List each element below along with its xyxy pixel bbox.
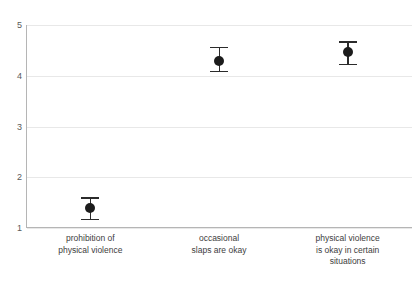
y-tick-label-2: 2 — [2, 173, 22, 182]
error-bar-cap-lower — [81, 219, 99, 221]
data-point-marker — [343, 47, 353, 57]
x-category-label-line: physical violence — [283, 233, 413, 245]
error-bar-cap-upper — [339, 41, 357, 43]
x-category-label-line: slaps are okay — [154, 245, 284, 257]
y-axis-tick-labels: 54321 — [0, 25, 22, 228]
x-category-label: physical violenceis okay in certainsitua… — [283, 233, 413, 268]
gridline-5 — [27, 25, 412, 26]
x-category-label-line: occasional — [154, 233, 284, 245]
gridline-2 — [27, 177, 412, 178]
x-category-label: prohibition ofphysical violence — [25, 233, 155, 256]
x-category-label-line: physical violence — [25, 245, 155, 257]
y-tick-label-5: 5 — [2, 21, 22, 30]
x-category-label-line: is okay in certain — [283, 245, 413, 257]
gridline-3 — [27, 127, 412, 128]
x-category-label-line: prohibition of — [25, 233, 155, 245]
error-bar-cap-lower — [210, 71, 228, 73]
gridline-4 — [27, 76, 412, 77]
data-point-marker — [85, 203, 95, 213]
gridline-1 — [27, 228, 412, 229]
error-bar-cap-upper — [81, 197, 99, 199]
data-point-marker — [214, 56, 224, 66]
plot-area — [26, 25, 412, 228]
x-category-label-line: situations — [283, 256, 413, 268]
x-category-label: occasionalslaps are okay — [154, 233, 284, 256]
y-tick-label-4: 4 — [2, 71, 22, 80]
y-tick-label-1: 1 — [2, 224, 22, 233]
y-tick-label-3: 3 — [2, 122, 22, 131]
chart-container: 54321 prohibition ofphysical violenceocc… — [0, 0, 418, 282]
error-bar-cap-upper — [210, 47, 228, 49]
x-axis-category-labels: prohibition ofphysical violenceoccasiona… — [26, 233, 412, 279]
error-bar-cap-lower — [339, 64, 357, 66]
